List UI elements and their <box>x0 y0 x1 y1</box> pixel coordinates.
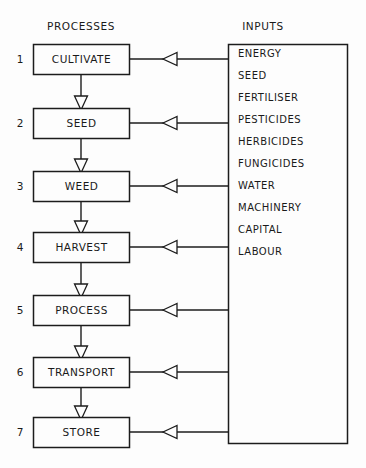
process-label: SEED <box>66 117 96 129</box>
inputs-column-header: INPUTS <box>242 20 284 32</box>
input-item: LABOUR <box>238 246 282 257</box>
process-node[interactable]: 5 PROCESS <box>17 296 130 326</box>
process-label: TRANSPORT <box>47 366 115 378</box>
process-number: 2 <box>17 117 24 129</box>
process-number: 3 <box>17 180 24 192</box>
process-number: 1 <box>17 53 24 65</box>
arrow-left-icon <box>163 304 177 317</box>
input-item: CAPITAL <box>238 224 282 235</box>
process-box-group: 1 CULTIVATE 2 SEED 3 WEED 4 HARVEST <box>17 45 130 448</box>
arrow-left-icon <box>163 366 177 379</box>
input-item: SEED <box>238 70 267 81</box>
process-label: WEED <box>65 180 99 192</box>
process-label: STORE <box>63 426 101 438</box>
processes-column-header: PROCESSES <box>47 20 115 32</box>
process-inputs-diagram: PROCESSES INPUTS ENERGY SEED FERTILISER … <box>0 0 366 468</box>
process-number: 4 <box>17 241 24 253</box>
arrow-left-icon <box>163 426 177 439</box>
arrow-left-icon <box>163 180 177 193</box>
process-node[interactable]: 1 CULTIVATE <box>17 45 130 75</box>
process-label: CULTIVATE <box>52 53 111 65</box>
process-number: 5 <box>17 304 24 316</box>
process-label: PROCESS <box>55 304 108 316</box>
process-node[interactable]: 7 STORE <box>17 418 130 448</box>
arrow-left-icon <box>163 117 177 130</box>
input-item: WATER <box>238 180 275 191</box>
input-item: FUNGICIDES <box>238 158 305 169</box>
inputs-container-box <box>229 45 348 444</box>
arrow-left-icon <box>163 241 177 254</box>
process-number: 6 <box>17 366 24 378</box>
process-node[interactable]: 2 SEED <box>17 109 130 139</box>
input-item: PESTICIDES <box>238 114 301 125</box>
input-item: MACHINERY <box>238 202 302 213</box>
input-item: FERTILISER <box>238 92 298 103</box>
arrow-left-icon <box>163 53 177 66</box>
process-node[interactable]: 3 WEED <box>17 172 130 202</box>
input-item: ENERGY <box>238 48 282 59</box>
input-connector-group <box>130 53 229 439</box>
input-item: HERBICIDES <box>238 136 304 147</box>
process-node[interactable]: 6 TRANSPORT <box>17 358 130 388</box>
process-node[interactable]: 4 HARVEST <box>17 233 130 263</box>
process-number: 7 <box>17 426 24 438</box>
process-label: HARVEST <box>55 241 107 253</box>
